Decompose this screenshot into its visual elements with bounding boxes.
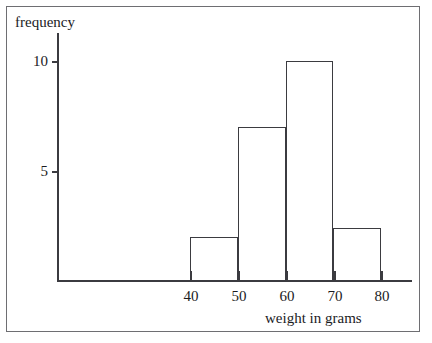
x-tick-label-70: 70 [315, 288, 355, 305]
y-tick-label-5: 5 [14, 163, 48, 180]
plot-area: frequency 5 10 40 50 60 70 80 weight in … [0, 0, 432, 343]
x-tick-label-50: 50 [219, 288, 259, 305]
y-axis-title: frequency [15, 14, 75, 31]
y-tick-5 [52, 171, 58, 173]
y-tick-label-10: 10 [14, 53, 48, 70]
y-tick-10 [52, 61, 58, 63]
x-tick-label-80: 80 [362, 288, 402, 305]
y-axis-line [57, 33, 59, 282]
x-tick-80 [381, 271, 383, 281]
x-tick-label-60: 60 [267, 288, 307, 305]
histogram-bar [286, 61, 334, 281]
x-axis-title: weight in grams [265, 310, 362, 327]
histogram-bar [190, 237, 238, 281]
histogram-bar [238, 127, 286, 281]
histogram-bar [333, 228, 381, 281]
x-tick-label-40: 40 [171, 288, 211, 305]
histogram-figure: frequency 5 10 40 50 60 70 80 weight in … [0, 0, 432, 343]
